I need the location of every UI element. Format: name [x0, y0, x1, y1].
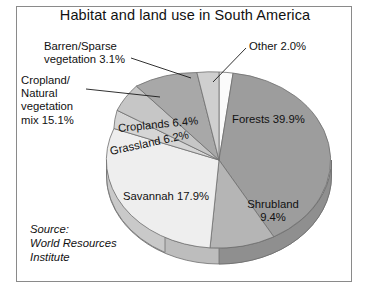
label-savannah: Savannah 17.9%: [123, 190, 209, 202]
source-note: Source: World Resources Institute: [30, 222, 117, 265]
leader-line-barren: [131, 58, 191, 78]
label-other: Other 2.0%: [249, 40, 306, 53]
label-forests: Forests 39.9%: [232, 113, 305, 126]
label-barren-sparse-vegetation: Barren/Sparse vegetation 3.1%: [44, 40, 125, 66]
label-shrubland: Shrubland 9.4%: [231, 198, 315, 224]
label-cropland-natural-vegetation-mix: Cropland/ Natural vegetation mix 15.1%: [21, 74, 74, 127]
